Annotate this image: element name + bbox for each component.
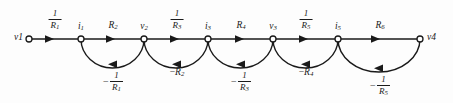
- node-v3: [270, 36, 276, 42]
- node-label-v1: v1: [14, 33, 23, 43]
- branch-label-b1: 1 R1: [49, 9, 62, 31]
- node-label-v3: v3: [269, 22, 277, 32]
- branch-label-b5: 1 R5: [300, 9, 313, 31]
- arrowhead-a3: [236, 61, 245, 68]
- node-label-i1: i1: [78, 22, 84, 32]
- node-v2: [141, 36, 147, 42]
- branch-label-b4: R4: [236, 21, 245, 31]
- arrowhead-b1: [45, 35, 54, 43]
- arc-label-a3: − 1 R3: [231, 71, 251, 93]
- arrowhead-b2: [106, 35, 115, 43]
- branch-label-b2: R2: [108, 21, 117, 31]
- arrowhead-a1: [108, 61, 117, 68]
- node-label-i3: i3: [205, 22, 211, 32]
- node-label-i5: i5: [335, 22, 341, 32]
- signal-flow-graph-figure: v1 i1 v2 i3 v3 i5 v4 1 R1 R2 1 R3 R4 1 R…: [0, 0, 453, 103]
- arc-label-a5: − 1 R5: [370, 75, 390, 97]
- arrowhead-b5: [299, 35, 308, 43]
- branch-label-b3: 1 R3: [171, 9, 184, 31]
- node-v1: [26, 36, 32, 42]
- node-v4: [417, 36, 423, 42]
- node-i3: [205, 36, 211, 42]
- arc-label-a1: − 1 R1: [103, 71, 123, 93]
- arc-label-a2: −R2: [170, 68, 185, 78]
- node-label-v4: v4: [427, 33, 436, 43]
- arrowhead-b6: [371, 35, 380, 43]
- branch-label-b6: R6: [375, 21, 384, 31]
- node-label-v2: v2: [140, 22, 148, 32]
- arrowhead-a5: [374, 65, 383, 72]
- arrowhead-b4: [235, 35, 244, 43]
- arrowhead-b3: [170, 35, 179, 43]
- node-i5: [335, 36, 341, 42]
- node-i1: [78, 36, 84, 42]
- arc-label-a4: −R4: [299, 68, 314, 78]
- feedback-arcs: [81, 39, 420, 72]
